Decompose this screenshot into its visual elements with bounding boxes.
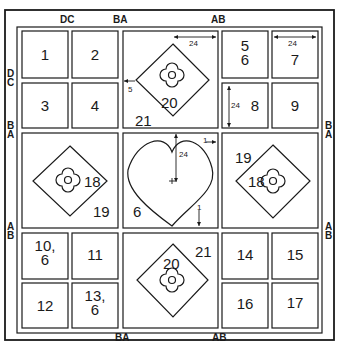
cell-13-6: 13, 6 xyxy=(72,289,118,317)
cell-3: 3 xyxy=(22,98,68,114)
cell-14: 14 xyxy=(222,247,268,263)
cell-10-6: 10, 6 xyxy=(22,239,68,267)
cell-15: 15 xyxy=(272,247,318,263)
cell-7: 7 xyxy=(272,52,318,68)
cell-1: 1 xyxy=(22,47,68,63)
heart-bg-label: 6 xyxy=(133,204,141,220)
cell-9: 9 xyxy=(272,98,318,114)
left-bg-label: 19 xyxy=(93,204,110,220)
edge-label-bottom-ab: AB xyxy=(212,333,226,342)
dim-heart-1-right: 1 xyxy=(203,136,207,145)
edge-label-left-ba: B A xyxy=(7,121,14,139)
dim-5: 5 xyxy=(128,85,132,94)
bottom-diamond-label: 20 xyxy=(163,256,180,272)
left-diamond-label: 18 xyxy=(84,174,101,190)
edge-label-left-ab: A B xyxy=(7,222,14,240)
dim-cell8-24: 24 xyxy=(231,101,240,110)
dim-heart-24: 24 xyxy=(179,150,188,159)
edge-label-right-ab: A B xyxy=(325,222,332,240)
bottom-bg-label: 21 xyxy=(195,244,212,260)
cell-5-6: 5 6 xyxy=(222,39,268,67)
right-diamond-label: 18 xyxy=(248,174,265,190)
edge-label-right-ba: B A xyxy=(325,121,332,139)
edge-label-top-dc: DC xyxy=(60,15,74,24)
edge-label-bottom-ba: BA xyxy=(115,333,129,342)
cell-16: 16 xyxy=(222,296,268,312)
cell-4: 4 xyxy=(72,98,118,114)
dim-cell7-24: 24 xyxy=(288,39,297,48)
right-bg-label: 19 xyxy=(235,150,252,166)
cell-12: 12 xyxy=(22,298,68,314)
top-diamond-label: 20 xyxy=(161,95,178,111)
edge-label-top-ba: BA xyxy=(113,15,127,24)
cell-11: 11 xyxy=(72,247,118,263)
edge-label-left-dc: D C xyxy=(7,69,14,87)
top-bg-label: 21 xyxy=(135,113,152,129)
dim-heart-1-bottom: 1 xyxy=(197,203,201,212)
cell-17: 17 xyxy=(272,295,318,311)
edge-label-top-ab: AB xyxy=(211,15,225,24)
cell-2: 2 xyxy=(72,47,118,63)
dim-top-24: 24 xyxy=(189,39,198,48)
